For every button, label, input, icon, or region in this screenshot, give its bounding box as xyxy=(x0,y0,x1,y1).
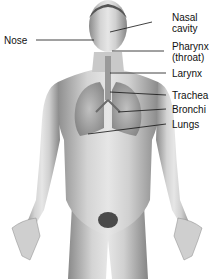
label-larynx: Larynx xyxy=(172,68,202,79)
label-bronchi: Bronchi xyxy=(172,104,206,115)
label-nasal-cavity-2: cavity xyxy=(172,23,198,34)
label-lungs: Lungs xyxy=(172,119,199,130)
label-trachea: Trachea xyxy=(172,90,208,101)
label-nasal-cavity: Nasal xyxy=(172,12,198,23)
trachea xyxy=(105,56,111,100)
label-pharynx: Pharynx xyxy=(172,41,209,52)
label-nose: Nose xyxy=(4,35,27,46)
right-hand xyxy=(174,218,202,260)
left-arm xyxy=(24,82,60,234)
left-hand xyxy=(12,218,40,260)
head xyxy=(89,0,127,52)
label-pharynx-2: (throat) xyxy=(172,52,204,63)
